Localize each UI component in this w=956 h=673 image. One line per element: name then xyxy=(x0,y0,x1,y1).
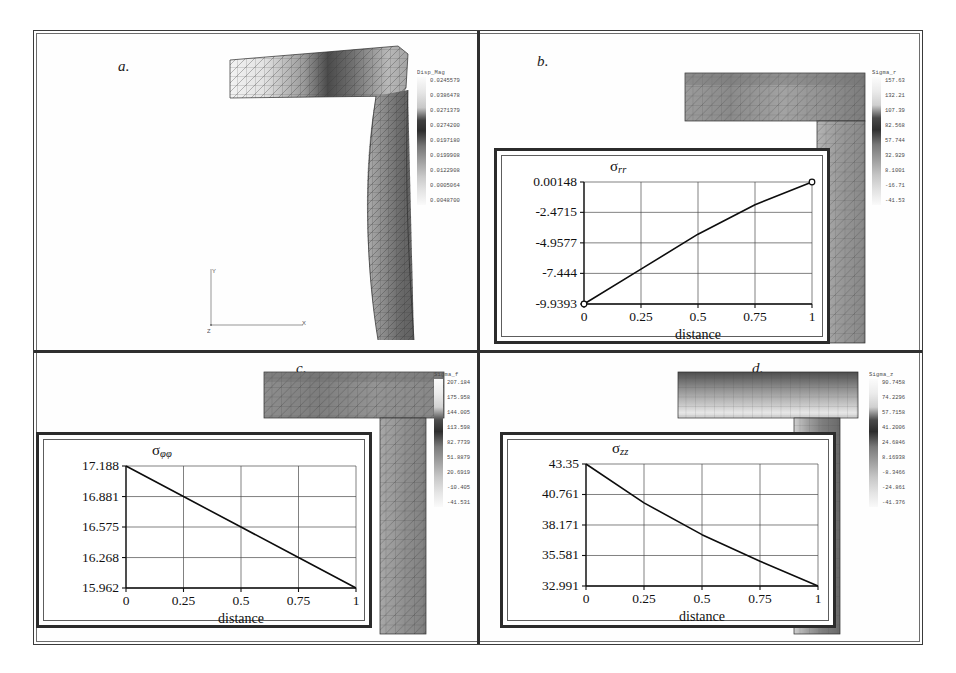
legend-ticklabels-sigma-phiphi: 207.184 175.958 144.005 113.598 82.7739 … xyxy=(447,379,491,507)
legend-tick: 0.0386478 xyxy=(430,93,460,99)
plot-ytick-label: -2.4715 xyxy=(502,204,577,220)
legend-tick: 8.16938 xyxy=(882,455,905,461)
plot-ytick-label: 0.00148 xyxy=(502,174,577,190)
plot-ytick-label: 15.962 xyxy=(44,580,119,596)
plot-xaxis-title-sigma-phiphi: distance xyxy=(218,611,264,627)
legend-title-displacement: Disp_Mag xyxy=(417,70,484,76)
legend-tick: 0.0274200 xyxy=(430,123,460,129)
plot-sigma-zz-inner: σzz 43.3540.76138.17135.58132.991 00.250… xyxy=(507,439,829,621)
fea-results-figure: a. xyxy=(0,0,956,673)
legend-tick: 0.0048700 xyxy=(430,198,460,204)
legend-tick: 24.6846 xyxy=(882,440,905,446)
panel-label-b: b. xyxy=(537,53,549,70)
sigma-subscript: φφ xyxy=(160,448,172,459)
legend-tick: -8.3466 xyxy=(882,470,905,476)
sigma-symbol: σ xyxy=(152,442,160,458)
legend-tick: 175.958 xyxy=(447,395,470,401)
legend-tick: 0.0245579 xyxy=(430,78,460,84)
axis-label-z: Z xyxy=(207,328,211,335)
plot-ytick-label: 35.581 xyxy=(508,547,579,563)
plot-ytick-label: 38.171 xyxy=(508,517,579,533)
sigma-symbol: σ xyxy=(610,158,618,174)
plot-xtick-label: 0 xyxy=(123,593,130,609)
panel-divider-horizontal xyxy=(34,350,922,353)
legend-tick: 57.744 xyxy=(885,138,905,144)
sigma-subscript: rr xyxy=(618,164,626,175)
plot-xtick-label: 0 xyxy=(581,309,588,325)
legend-tick: 0.0122908 xyxy=(430,168,460,174)
plot-sigma-phiphi-inner: σφφ 17.18816.88116.57516.26815.962 00.25… xyxy=(43,439,365,621)
legend-tick: -41.53 xyxy=(885,198,905,204)
legend-ticklabels-sigma-zz: 90.7458 74.2296 57.7158 41.2006 24.6846 … xyxy=(882,379,926,507)
legend-tick: 0.0271379 xyxy=(430,108,460,114)
plot-ytick-label: 40.761 xyxy=(508,486,579,502)
plot-ytick-label: 17.188 xyxy=(44,458,119,474)
legend-tick: 32.929 xyxy=(885,153,905,159)
plot-xtick-label: 0.75 xyxy=(748,591,772,607)
plot-xaxis-title-sigma-rr: distance xyxy=(675,327,721,343)
panel-label-a: a. xyxy=(118,58,130,75)
legend-displacement: Disp_Mag 0.0245579 0.0386478 0.0271379 0… xyxy=(417,70,474,205)
plot-xtick-label: 1 xyxy=(815,591,822,607)
sigma-symbol: σ xyxy=(612,440,620,456)
legend-colorbar-sigma-phiphi xyxy=(434,379,443,507)
axis-label-y: Y xyxy=(212,268,216,275)
plot-xtick-label: 0.5 xyxy=(233,593,250,609)
plot-ytick-label: 32.991 xyxy=(508,578,579,594)
legend-tick: 144.005 xyxy=(447,410,470,416)
legend-tick: 20.6919 xyxy=(447,470,470,476)
plot-title-sigma-phiphi: σφφ xyxy=(152,442,172,459)
legend-tick: 51.8879 xyxy=(447,455,470,461)
legend-tick: 132.21 xyxy=(885,93,905,99)
plot-ytick-label: -7.444 xyxy=(502,265,577,281)
plot-xtick-label: 0.5 xyxy=(694,591,711,607)
coordinate-axis-triad: X Y Z xyxy=(203,263,313,339)
legend-tick: 0.0005064 xyxy=(430,183,460,189)
plot-xtick-label: 0.25 xyxy=(629,309,653,325)
plot-xtick-label: 1 xyxy=(809,309,816,325)
plot-sigma-zz: σzz 43.3540.76138.17135.58132.991 00.250… xyxy=(500,432,836,628)
plot-xaxis-title-sigma-zz: distance xyxy=(679,609,725,625)
plot-xtick-label: 1 xyxy=(353,593,360,609)
legend-ticklabels-displacement: 0.0245579 0.0386478 0.0271379 0.0274200 … xyxy=(430,77,474,205)
legend-tick: 113.598 xyxy=(447,425,470,431)
legend-tick: 0.0197180 xyxy=(430,138,460,144)
legend-sigma-phiphi: Sigma_f 207.184 175.958 144.005 113.598 … xyxy=(434,372,491,507)
plot-ytick-label: 16.268 xyxy=(44,550,119,566)
legend-tick: 90.7458 xyxy=(882,380,905,386)
plot-sigma-rr-inner: σrr 0.00148-2.4715-4.9577-7.444-9.9393 0… xyxy=(501,155,823,337)
plot-xtick-label: 0.75 xyxy=(743,309,767,325)
legend-tick: 41.2006 xyxy=(882,425,905,431)
legend-title-sigma-phiphi: Sigma_f xyxy=(434,372,501,378)
legend-tick: -10.405 xyxy=(447,485,470,491)
legend-tick: -41.531 xyxy=(447,500,470,506)
legend-tick: 74.2296 xyxy=(882,395,905,401)
plot-ytick-label: 43.35 xyxy=(508,456,579,472)
legend-tick: 82.568 xyxy=(885,123,905,129)
plot-title-sigma-zz: σzz xyxy=(612,440,628,457)
legend-tick: 207.184 xyxy=(447,380,470,386)
sigma-subscript: zz xyxy=(620,446,628,457)
plot-ytick-label: 16.881 xyxy=(44,489,119,505)
plot-sigma-rr: σrr 0.00148-2.4715-4.9577-7.444-9.9393 0… xyxy=(494,148,830,344)
legend-tick: -16.71 xyxy=(885,183,905,189)
plot-xtick-label: 0.25 xyxy=(172,593,196,609)
plot-sigma-phiphi: σφφ 17.18816.88116.57516.26815.962 00.25… xyxy=(36,432,372,628)
legend-sigma-rr: Sigma_r 157.63 132.21 107.39 82.568 57.7… xyxy=(872,70,929,205)
legend-tick: 8.1001 xyxy=(885,168,905,174)
axis-label-x: X xyxy=(302,320,306,327)
legend-tick: 82.7739 xyxy=(447,440,470,446)
legend-sigma-zz: Sigma_z 90.7458 74.2296 57.7158 41.2006 … xyxy=(869,372,926,507)
plot-ytick-label: -4.9577 xyxy=(502,235,577,251)
plot-ytick-label: -9.9393 xyxy=(502,296,577,312)
plot-ytick-label: 16.575 xyxy=(44,519,119,535)
plot-xtick-label: 0.5 xyxy=(690,309,707,325)
panel-divider-vertical xyxy=(477,31,480,644)
legend-tick: 0.0199908 xyxy=(430,153,460,159)
plot-xtick-label: 0.25 xyxy=(632,591,656,607)
legend-colorbar-sigma-rr xyxy=(872,77,881,205)
legend-tick: 157.63 xyxy=(885,78,905,84)
legend-title-sigma-rr: Sigma_r xyxy=(872,70,939,76)
legend-title-sigma-zz: Sigma_z xyxy=(869,372,936,378)
legend-tick: 107.39 xyxy=(885,108,905,114)
